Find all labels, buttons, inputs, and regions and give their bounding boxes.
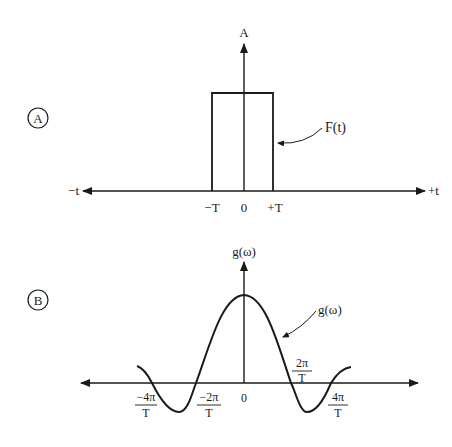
svg-text:2π: 2π <box>296 356 308 370</box>
svg-text:A: A <box>33 111 43 126</box>
panel-b: B g(ω) g(ω) −4π T −2π T 0 2π T <box>28 244 418 420</box>
panel-b-marker: B <box>28 290 48 310</box>
callout-arrow <box>278 128 322 143</box>
tick-neg-4pi-over-T: −4π T <box>135 390 157 420</box>
svg-text:4π: 4π <box>332 390 344 404</box>
svg-text:−2π: −2π <box>200 390 219 404</box>
panel-a: A −t +t A −T 0 +T F(t) <box>28 25 439 215</box>
tick-pos-T: +T <box>267 200 282 215</box>
g-omega-axis-label: g(ω) <box>232 244 256 259</box>
svg-text:T: T <box>298 371 306 385</box>
figure-canvas: A −t +t A −T 0 +T F(t) B g(ω) <box>0 0 452 447</box>
pulse-curve <box>212 93 273 191</box>
svg-text:T: T <box>205 406 213 420</box>
tick-pos-4pi-over-T: 4π T <box>328 390 348 420</box>
pulse-curve-label: F(t) <box>325 120 346 136</box>
t-positive-label: +t <box>428 183 439 198</box>
tick-pos-2pi-over-T: 2π T <box>292 356 312 385</box>
svg-text:T: T <box>142 406 150 420</box>
tick-zero: 0 <box>241 200 248 215</box>
svg-text:T: T <box>334 406 342 420</box>
sinc-curve-label: g(ω) <box>318 302 342 317</box>
callout-arrow <box>283 311 316 337</box>
tick-zero: 0 <box>241 391 247 405</box>
svg-text:B: B <box>34 293 43 308</box>
panel-a-marker: A <box>28 108 48 128</box>
tick-neg-T: −T <box>204 200 219 215</box>
amplitude-label: A <box>239 25 249 40</box>
t-negative-label: −t <box>68 183 79 198</box>
svg-text:−4π: −4π <box>137 390 156 404</box>
tick-neg-2pi-over-T: −2π T <box>197 390 221 420</box>
